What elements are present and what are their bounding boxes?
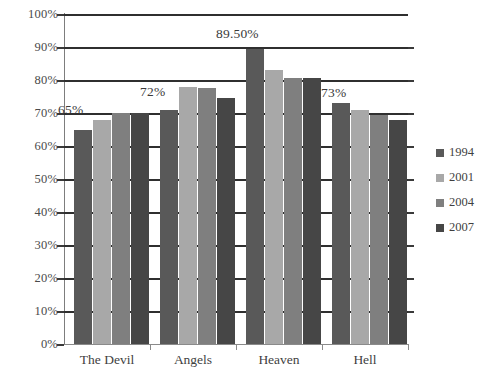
x-axis-label-hell: Hell — [322, 352, 408, 367]
bar-hell-2004 — [370, 115, 388, 344]
bar-group-hell — [332, 14, 410, 344]
y-tick-50 — [57, 179, 64, 181]
legend-label-2004: 2004 — [449, 196, 474, 209]
legend-swatch-icon-2001 — [436, 174, 444, 182]
x-axis-label-heaven: Heaven — [236, 352, 322, 367]
bar-the-devil-2004 — [112, 113, 130, 344]
bar-heaven-2004 — [284, 78, 302, 344]
y-tick-20 — [57, 278, 64, 280]
bar-angels-2004 — [198, 88, 216, 344]
y-axis-tick-label-40: 40% — [2, 206, 58, 219]
bar-the-devil-2007 — [131, 113, 149, 344]
chart-title-remnant — [185, 0, 355, 5]
y-tick-30 — [57, 245, 64, 247]
x-category-separator-2 — [236, 344, 237, 350]
bar-hell-1994 — [332, 103, 350, 344]
bar-angels-1994 — [160, 110, 178, 344]
legend-label-1994: 1994 — [449, 146, 474, 159]
bar-group-angels — [160, 14, 238, 344]
plot-area — [64, 14, 408, 344]
bar-heaven-2007 — [303, 78, 321, 344]
bar-the-devil-1994 — [74, 130, 92, 345]
legend-item-1994: 1994 — [436, 140, 500, 165]
legend-item-2001: 2001 — [436, 165, 500, 190]
bar-hell-2001 — [351, 110, 369, 344]
y-tick-90 — [57, 47, 64, 49]
x-category-separator-1 — [150, 344, 151, 350]
bar-angels-2007 — [217, 98, 235, 344]
y-tick-0 — [57, 344, 64, 346]
y-axis-tick-label-30: 30% — [2, 239, 58, 252]
y-axis-tick-label-10: 10% — [2, 305, 58, 318]
y-axis-tick-label-70: 70% — [2, 107, 58, 120]
x-category-separator-3 — [322, 344, 323, 350]
data-label-the-devil: 65% — [58, 103, 83, 117]
y-axis-tick-label-0: 0% — [2, 338, 58, 351]
bar-angels-2001 — [179, 87, 197, 344]
x-axis-label-angels: Angels — [150, 352, 236, 367]
y-tick-40 — [57, 212, 64, 214]
bar-heaven-1994 — [246, 49, 264, 344]
data-label-heaven: 89.50% — [216, 27, 259, 41]
legend-swatch-icon-1994 — [436, 149, 444, 157]
data-label-angels: 72% — [140, 85, 165, 99]
legend-label-2007: 2007 — [449, 221, 474, 234]
bar-heaven-2001 — [265, 70, 283, 344]
bar-group-heaven — [246, 14, 324, 344]
bar-the-devil-2001 — [93, 120, 111, 344]
y-tick-60 — [57, 146, 64, 148]
x-category-separator-4 — [408, 344, 409, 350]
data-label-hell: 73% — [321, 86, 346, 100]
y-axis-tick-label-60: 60% — [2, 140, 58, 153]
y-axis-tick-label-50: 50% — [2, 173, 58, 186]
y-axis-tick-label-90: 90% — [2, 41, 58, 54]
legend-label-2001: 2001 — [449, 171, 474, 184]
legend-item-2007: 2007 — [436, 215, 500, 240]
y-tick-10 — [57, 311, 64, 313]
bar-hell-2007 — [389, 120, 407, 344]
legend-swatch-icon-2004 — [436, 199, 444, 207]
bar-group-the-devil — [74, 14, 152, 344]
chart-legend: 1994 2001 2004 2007 — [436, 140, 500, 240]
y-tick-100 — [57, 14, 64, 16]
y-axis-labels: 100% 90% 80% 70% 60% 50% 40% 30% 20% 10%… — [0, 0, 58, 381]
legend-swatch-icon-2007 — [436, 224, 444, 232]
y-tick-80 — [57, 80, 64, 82]
legend-item-2004: 2004 — [436, 190, 500, 215]
bar-chart: 100% 90% 80% 70% 60% 50% 40% 30% 20% 10%… — [0, 0, 500, 381]
y-axis-tick-label-100: 100% — [2, 8, 58, 21]
y-axis-tick-label-80: 80% — [2, 74, 58, 87]
y-axis-tick-label-20: 20% — [2, 272, 58, 285]
x-axis-label-the-devil: The Devil — [64, 352, 150, 367]
